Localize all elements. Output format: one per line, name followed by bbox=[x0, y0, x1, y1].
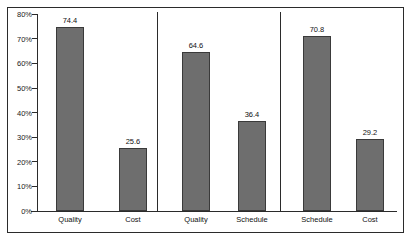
panel-divider bbox=[157, 12, 158, 212]
y-tick-label: 10% bbox=[8, 183, 32, 191]
bar-value-label: 29.2 bbox=[346, 129, 394, 137]
category-label: Quality bbox=[172, 216, 220, 224]
y-tick-mark bbox=[32, 14, 37, 15]
bar-chart-figure: 80% 70% 60% 50% 40% 30% 20% 10% 0% 74.4 … bbox=[0, 0, 412, 242]
bar-value-label: 25.6 bbox=[109, 138, 157, 146]
y-tick-mark bbox=[32, 186, 37, 187]
bar-value-label: 36.4 bbox=[228, 111, 276, 119]
y-tick-mark bbox=[32, 112, 37, 113]
bar bbox=[356, 139, 384, 211]
bar bbox=[56, 27, 84, 210]
bar bbox=[303, 36, 331, 210]
panel-divider bbox=[280, 12, 281, 212]
y-tick-label: 50% bbox=[8, 85, 32, 93]
y-tick-label: 70% bbox=[8, 36, 32, 44]
y-tick-mark bbox=[32, 63, 37, 64]
category-label: Schedule bbox=[293, 216, 341, 224]
category-label: Quality bbox=[46, 216, 94, 224]
y-tick-label: 40% bbox=[8, 110, 32, 118]
y-tick-label: 30% bbox=[8, 134, 32, 142]
y-tick-label: 80% bbox=[8, 11, 32, 19]
y-tick-label: 0% bbox=[8, 208, 32, 216]
bar-value-label: 70.8 bbox=[293, 26, 341, 34]
category-label: Schedule bbox=[228, 216, 276, 224]
y-tick-label: 60% bbox=[8, 60, 32, 68]
y-tick-mark bbox=[32, 137, 37, 138]
x-axis-line bbox=[31, 211, 397, 212]
bar-value-label: 64.6 bbox=[172, 42, 220, 50]
y-axis-tick-labels: 80% 70% 60% 50% 40% 30% 20% 10% 0% bbox=[8, 0, 32, 242]
category-label: Cost bbox=[346, 216, 394, 224]
bar-value-label: 74.4 bbox=[46, 17, 94, 25]
y-tick-mark bbox=[32, 88, 37, 89]
y-tick-mark bbox=[32, 161, 37, 162]
bar bbox=[119, 148, 147, 211]
y-tick-mark bbox=[32, 211, 37, 212]
y-tick-label: 20% bbox=[8, 159, 32, 167]
bar bbox=[182, 52, 210, 211]
y-tick-mark bbox=[32, 38, 37, 39]
y-axis-line bbox=[37, 14, 38, 212]
bar bbox=[238, 121, 266, 211]
category-label: Cost bbox=[109, 216, 157, 224]
